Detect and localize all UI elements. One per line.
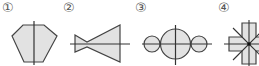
figure-2-bowtie [70, 25, 130, 62]
center-point [247, 42, 251, 46]
figures-canvas [0, 0, 259, 66]
figure-1-pentagon [12, 21, 57, 65]
figure-4-cross [224, 20, 259, 66]
figure-3-circles [142, 25, 212, 65]
